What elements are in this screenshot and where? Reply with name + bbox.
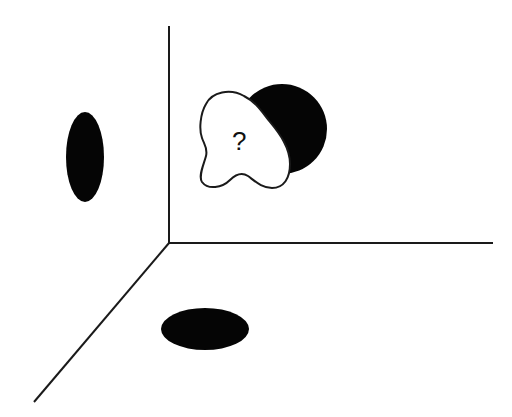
projection-diagram: ? <box>0 0 512 417</box>
question-mark-label: ? <box>232 126 246 156</box>
left-wall-projection-ellipse <box>66 112 104 202</box>
floor-projection-ellipse <box>161 308 249 350</box>
diagonal-axis <box>34 243 169 402</box>
